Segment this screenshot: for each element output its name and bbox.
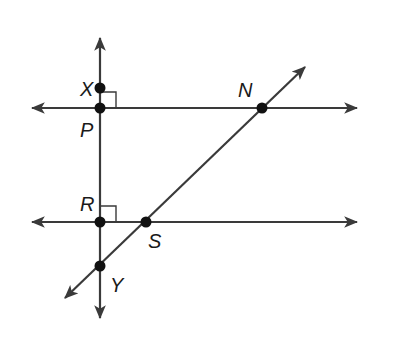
point-p bbox=[95, 103, 106, 114]
point-r bbox=[95, 217, 106, 228]
point-y bbox=[95, 261, 106, 272]
point-n bbox=[257, 103, 268, 114]
label-x: X bbox=[79, 78, 94, 100]
point-s bbox=[141, 217, 152, 228]
label-y: Y bbox=[110, 274, 125, 296]
diagram-svg: XPNRSY bbox=[0, 0, 397, 337]
geometry-diagram: XPNRSY bbox=[0, 0, 397, 337]
label-s: S bbox=[148, 230, 162, 252]
labels-layer: XPNRSY bbox=[79, 78, 253, 296]
label-n: N bbox=[238, 79, 253, 101]
label-p: P bbox=[80, 119, 94, 141]
label-r: R bbox=[80, 193, 94, 215]
point-x bbox=[95, 83, 106, 94]
